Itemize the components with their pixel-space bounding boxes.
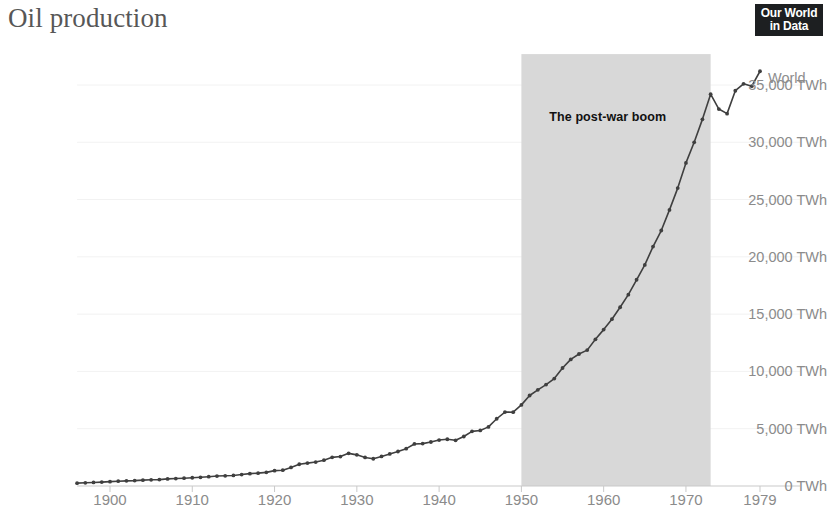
y-axis-tick-label: 20,000 TWh bbox=[725, 249, 827, 265]
x-axis-tick-label: 1970 bbox=[669, 491, 702, 508]
x-axis-tick-label: 1960 bbox=[587, 491, 620, 508]
y-axis-tick-label: 10,000 TWh bbox=[725, 363, 827, 379]
series-end-label-world: World bbox=[768, 70, 806, 86]
y-axis-tick-label: 5,000 TWh bbox=[725, 421, 827, 437]
y-axis-tick-label: 30,000 TWh bbox=[725, 134, 827, 150]
chart-page: Oil production Our World in Data 0 TWh5,… bbox=[0, 0, 827, 517]
chart-plot-area bbox=[0, 0, 827, 517]
x-axis-tick-label: 1940 bbox=[422, 491, 455, 508]
y-axis-tick-label: 15,000 TWh bbox=[725, 306, 827, 322]
y-axis-tick-label: 25,000 TWh bbox=[725, 192, 827, 208]
x-axis-tick-label: 1900 bbox=[93, 491, 126, 508]
x-axis-tick-label: 1979 bbox=[743, 491, 776, 508]
x-axis-tick-label: 1950 bbox=[505, 491, 538, 508]
x-axis-tick-label: 1920 bbox=[258, 491, 291, 508]
band-annotation-label: The post-war boom bbox=[549, 110, 666, 124]
x-axis-tick-label: 1910 bbox=[176, 491, 209, 508]
x-axis-tick-label: 1930 bbox=[340, 491, 373, 508]
